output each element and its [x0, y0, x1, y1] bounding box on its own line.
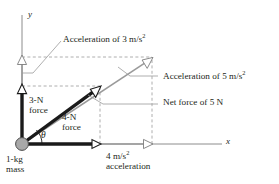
vector-force-3n — [17, 84, 26, 144]
leader-net-force — [88, 95, 158, 104]
label-acceleration-5: Acceleration of 5 m/s2 — [163, 70, 246, 82]
label-acceleration-3-exponent: 2 — [142, 32, 145, 39]
arrowhead-net-force-5n — [90, 86, 101, 97]
label-acceleration-4-exponent: 2 — [126, 149, 129, 156]
label-mass: 1-kg mass — [6, 155, 24, 175]
physics-vector-diagram: y x Acceleration of 3 m/s2 Acceleration … — [0, 0, 279, 184]
label-acceleration-4: 4 m/s2 acceleration — [106, 150, 150, 172]
arrowhead-acceleration-5 — [142, 57, 153, 68]
arrowhead-acceleration-3 — [17, 55, 26, 65]
x-axis-label: x — [226, 137, 230, 147]
label-angle-theta: θ — [41, 130, 46, 140]
y-axis-label: y — [28, 10, 32, 20]
label-acceleration-5-exponent: 2 — [242, 69, 245, 76]
label-acceleration-5-text: Acceleration of 5 m/s — [163, 71, 242, 81]
force-vectors — [17, 84, 101, 148]
arrowhead-acceleration-4 — [144, 139, 154, 148]
label-acceleration-3-text: Acceleration of 3 m/s — [63, 34, 142, 44]
label-mass-line2: mass — [6, 165, 24, 175]
mass-circle — [16, 138, 29, 151]
arrowhead-force-3n — [17, 84, 26, 94]
label-force-4n: 4-N force — [62, 113, 81, 133]
label-force-4n-line2: force — [62, 123, 81, 133]
label-force-3n: 3-N force — [29, 96, 48, 116]
arrowhead-force-4n — [92, 140, 101, 149]
label-net-force-5n: Net force of 5 N — [163, 98, 223, 108]
label-force-3n-line2: force — [29, 106, 48, 116]
label-acceleration-4-line2: acceleration — [106, 162, 150, 172]
vector-force-4n — [22, 140, 101, 149]
label-acceleration-3: Acceleration of 3 m/s2 — [63, 33, 146, 45]
label-acceleration-4-prefix: 4 m/s — [106, 151, 126, 161]
